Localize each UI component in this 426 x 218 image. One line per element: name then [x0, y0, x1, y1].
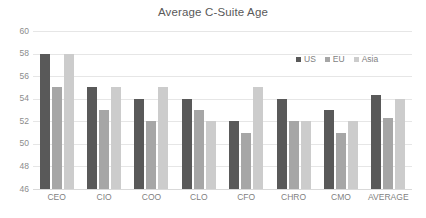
bar-eu-ceo[interactable] — [52, 87, 62, 189]
bar-eu-coo[interactable] — [146, 121, 156, 189]
bar-eu-cfo[interactable] — [241, 133, 251, 189]
x-axis-tick-label: CLO — [175, 192, 222, 203]
bar-group — [229, 31, 263, 189]
bar-eu-average[interactable] — [383, 118, 393, 189]
x-axis-tick-label: AVERAGE — [365, 192, 412, 203]
legend-swatch-icon — [296, 57, 301, 62]
bar-us-cfo[interactable] — [229, 121, 239, 189]
chart-container: Average C-Suite Age 6058565452504846 USE… — [0, 0, 426, 218]
x-axis-tick-label: CEO — [33, 192, 80, 203]
x-axis-tick-label: CMO — [317, 192, 364, 203]
legend-label: US — [304, 55, 316, 64]
y-axis-tick-label: 52 — [3, 117, 29, 126]
bar-asia-chro[interactable] — [301, 121, 311, 189]
bar-us-chro[interactable] — [277, 99, 287, 189]
bar-group — [182, 31, 216, 189]
bar-us-cmo[interactable] — [324, 110, 334, 189]
bar-eu-chro[interactable] — [289, 121, 299, 189]
y-axis-tick-label: 58 — [3, 49, 29, 58]
chart-title: Average C-Suite Age — [0, 6, 426, 18]
bar-us-cio[interactable] — [87, 87, 97, 189]
bar-asia-cio[interactable] — [111, 87, 121, 189]
bar-asia-ceo[interactable] — [64, 54, 74, 189]
bar-asia-coo[interactable] — [158, 87, 168, 189]
legend-item-asia[interactable]: Asia — [354, 55, 379, 64]
y-axis-tick-label: 60 — [3, 27, 29, 36]
bar-us-clo[interactable] — [182, 99, 192, 189]
y-axis-tick-label: 48 — [3, 162, 29, 171]
y-axis-tick-label: 50 — [3, 139, 29, 148]
x-axis-line — [33, 189, 412, 190]
y-axis-tick-label: 56 — [3, 72, 29, 81]
bar-eu-cio[interactable] — [99, 110, 109, 189]
bar-eu-cmo[interactable] — [336, 133, 346, 189]
legend-item-us[interactable]: US — [296, 55, 316, 64]
legend-swatch-icon — [325, 57, 330, 62]
y-axis: 6058565452504846 — [0, 0, 29, 218]
bar-asia-cfo[interactable] — [253, 87, 263, 189]
bar-asia-clo[interactable] — [206, 121, 216, 189]
bar-us-ceo[interactable] — [40, 54, 50, 189]
legend-label: EU — [333, 55, 345, 64]
y-axis-tick-label: 54 — [3, 94, 29, 103]
chart-legend: USEUAsia — [296, 55, 378, 64]
bar-asia-average[interactable] — [395, 99, 405, 189]
bar-eu-clo[interactable] — [194, 110, 204, 189]
bar-us-average[interactable] — [371, 95, 381, 189]
bar-us-coo[interactable] — [134, 99, 144, 189]
bar-group — [87, 31, 121, 189]
bar-group — [134, 31, 168, 189]
x-axis-tick-label: CFO — [223, 192, 270, 203]
legend-item-eu[interactable]: EU — [325, 55, 345, 64]
y-axis-tick-label: 46 — [3, 185, 29, 194]
bar-asia-cmo[interactable] — [348, 121, 358, 189]
legend-label: Asia — [362, 55, 379, 64]
x-axis-tick-label: COO — [128, 192, 175, 203]
bar-group — [40, 31, 74, 189]
legend-swatch-icon — [354, 57, 359, 62]
x-axis-tick-label: CHRO — [270, 192, 317, 203]
x-axis-tick-label: CIO — [80, 192, 127, 203]
